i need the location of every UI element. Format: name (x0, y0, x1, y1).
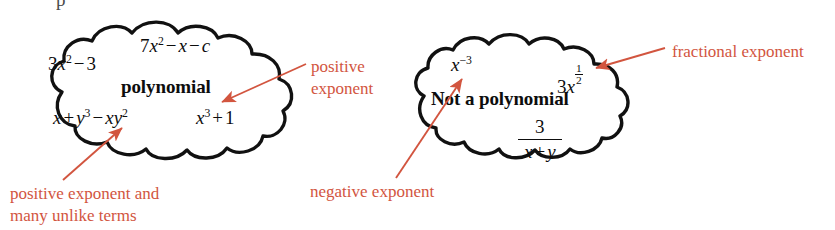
operator-plus: + (210, 107, 225, 128)
variable-x: x (150, 35, 158, 56)
polynomial-cloud-label: polynomial (121, 76, 211, 98)
exponent-numerator: 1 (575, 63, 583, 74)
annotation-line: fractional exponent (672, 41, 804, 63)
operator-minus: − (187, 35, 202, 56)
not-polynomial-cloud-label: Not a polynomial (431, 88, 569, 110)
annotation-negative-exponent: negative exponent (310, 181, 434, 203)
negative-exponent: −3 (459, 54, 472, 67)
operator-plus: + (61, 107, 76, 128)
exponent-denominator: 2 (575, 74, 583, 86)
annotation-line: positive exponent and (10, 183, 159, 205)
arrow-fractional-exponent (596, 48, 665, 68)
expr-7x2-x-c: 7x2−x−c (140, 36, 210, 55)
annotation-line: many unlike terms (10, 205, 159, 227)
annotation-line: exponent (311, 78, 373, 100)
variable-y: y (76, 107, 84, 128)
term-xy: xy (105, 107, 122, 128)
variable-x: x (58, 53, 66, 74)
expr-x-y3-xy2: x+y3−xy2 (53, 108, 128, 127)
variable-x: x (179, 35, 187, 56)
annotation-positive-exponent-unlike-terms: positive exponent and many unlike terms (10, 183, 159, 227)
annotation-positive-exponent: positive exponent (311, 56, 373, 100)
coefficient: 7 (140, 35, 150, 56)
annotation-fractional-exponent: fractional exponent (672, 41, 804, 63)
fractional-exponent: 12 (575, 63, 583, 87)
constant: 3 (87, 53, 97, 74)
expr-3x2-3: 3x2−3 (48, 54, 96, 73)
exponent: 2 (158, 35, 164, 48)
arrow-positive-exponent (222, 64, 306, 102)
fraction-denominator: x+y (518, 139, 562, 163)
arrow-positive-exponent-unlike-terms (63, 128, 122, 180)
constant: 1 (225, 107, 235, 128)
variable-c: c (202, 35, 210, 56)
annotation-line: negative exponent (310, 181, 434, 203)
expr-x3-1: x3+1 (196, 108, 235, 127)
exponent: 2 (122, 107, 128, 120)
figure-canvas: p 3x2−3 7x2−x−c polynomial x+y3−xy2 x3+1… (0, 0, 835, 230)
fraction-numerator: 3 (518, 116, 562, 139)
expr-3-over-x-y: 3 x+y (518, 116, 562, 163)
clipped-top-glyph: p (56, 0, 66, 11)
expr-x-neg3: x−3 (451, 55, 472, 74)
coefficient: 3 (48, 53, 58, 74)
exponent: 2 (66, 53, 72, 66)
annotation-line: positive (311, 56, 373, 78)
operator-minus: − (72, 53, 87, 74)
operator-minus: − (164, 35, 179, 56)
operator-minus: − (90, 107, 105, 128)
